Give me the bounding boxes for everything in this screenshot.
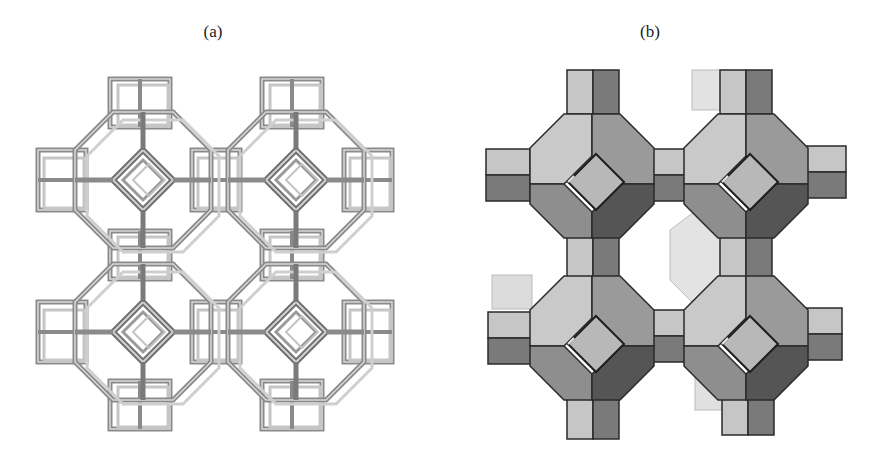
panel-a-wireframe-model: (a) [0,0,440,463]
truncated-octahedron-cage [684,114,808,238]
panel-b-polyhedral-model: (b) [440,0,883,463]
back-cube-face [492,275,532,309]
polyhedral-structure-illustration [440,0,883,463]
wireframe-cages [38,79,392,429]
wireframe-structure-illustration [0,0,440,463]
cube-unit [488,312,532,364]
cube-unit [720,234,772,278]
cube-unit [567,70,619,114]
truncated-octahedron-cage [530,276,654,400]
cube-unit [486,149,530,201]
truncated-octahedron-cage [684,276,808,400]
polyhedral-cages [486,70,846,439]
cube-unit [720,70,772,114]
cube-unit [567,395,619,439]
truncated-octahedron-cage [530,114,654,238]
cube-unit [567,234,619,278]
